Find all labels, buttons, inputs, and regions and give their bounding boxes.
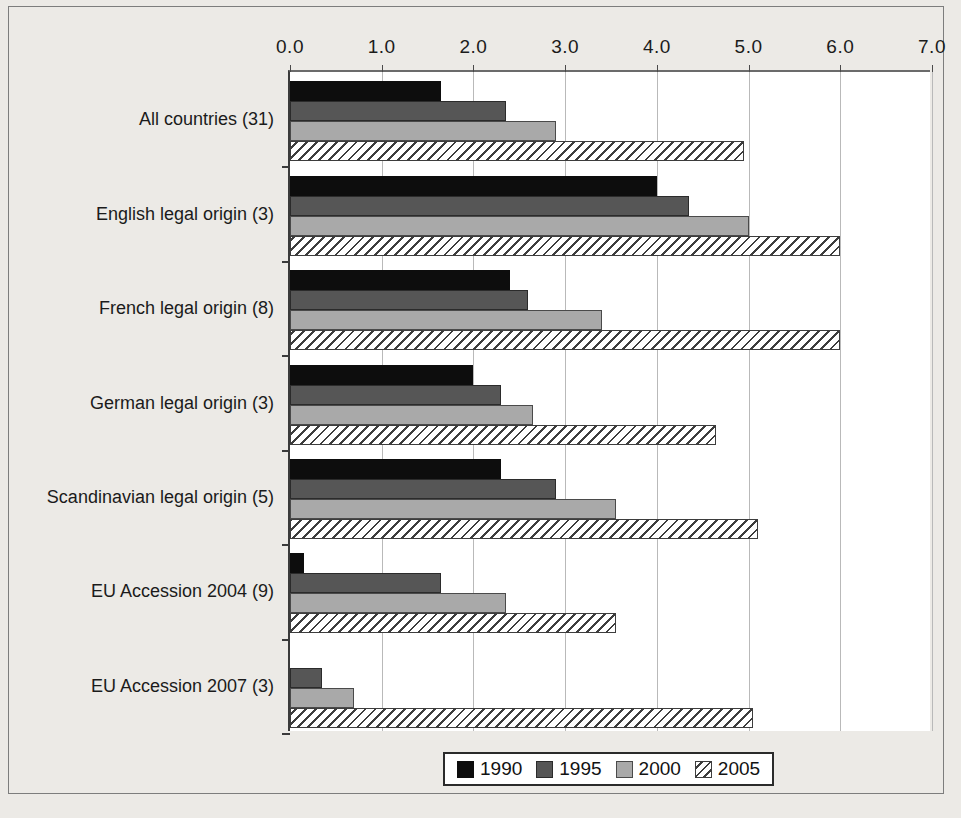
- category-label: EU Accession 2007 (3): [0, 676, 274, 697]
- bar-2000-4: [290, 405, 533, 425]
- legend-swatch-icon: [536, 761, 553, 778]
- bar-1990-5: [290, 459, 501, 479]
- category-tick: [282, 166, 290, 168]
- bar-1990-4: [290, 365, 473, 385]
- bar-1995-5: [290, 479, 556, 499]
- x-tick-mark: [382, 65, 383, 72]
- x-tick-label: 0.0: [276, 36, 304, 58]
- legend-swatch-icon: [616, 761, 633, 778]
- bar-2000-7: [290, 688, 354, 708]
- figure-frame: 0.01.02.03.04.05.06.07.0 All countries (…: [8, 6, 944, 794]
- x-tick-mark: [749, 65, 750, 72]
- bar-group: French legal origin (8): [290, 270, 930, 350]
- x-tick-label: 7.0: [918, 36, 946, 58]
- bar-group: German legal origin (3): [290, 365, 930, 445]
- legend-label: 2005: [718, 758, 760, 780]
- legend-item-2005[interactable]: 2005: [695, 758, 760, 780]
- chart-page: 0.01.02.03.04.05.06.07.0 All countries (…: [0, 0, 961, 818]
- legend-label: 2000: [639, 758, 681, 780]
- bar-2005-1: [290, 141, 744, 161]
- chart-legend: 1990199520002005: [443, 752, 774, 786]
- bar-1995-6: [290, 573, 441, 593]
- bar-group: Scandinavian legal origin (5): [290, 459, 930, 539]
- legend-item-1995[interactable]: 1995: [536, 758, 601, 780]
- bar-1990-6: [290, 553, 304, 573]
- category-tick: [282, 639, 290, 641]
- bar-2000-3: [290, 310, 602, 330]
- bar-2005-5: [290, 519, 758, 539]
- category-label: French legal origin (8): [0, 298, 274, 319]
- bar-group: English legal origin (3): [290, 176, 930, 256]
- category-label: Scandinavian legal origin (5): [0, 487, 274, 508]
- bar-2005-2: [290, 236, 840, 256]
- x-tick-label: 4.0: [643, 36, 671, 58]
- category-tick: [282, 544, 290, 546]
- bar-2000-5: [290, 499, 616, 519]
- bar-2005-3: [290, 330, 840, 350]
- x-tick-mark: [840, 65, 841, 72]
- bar-2000-1: [290, 121, 556, 141]
- legend-label: 1995: [559, 758, 601, 780]
- x-tick-mark: [565, 65, 566, 72]
- x-tick-label: 5.0: [735, 36, 763, 58]
- x-tick-label: 1.0: [368, 36, 396, 58]
- bar-1990-2: [290, 176, 657, 196]
- category-label: English legal origin (3): [0, 204, 274, 225]
- category-label: All countries (31): [0, 109, 274, 130]
- gridline: [932, 72, 933, 731]
- category-tick: [282, 355, 290, 357]
- category-label: EU Accession 2004 (9): [0, 581, 274, 602]
- bar-1990-3: [290, 270, 510, 290]
- bar-group: EU Accession 2004 (9): [290, 553, 930, 633]
- x-tick-mark: [290, 65, 291, 72]
- x-tick-mark: [657, 65, 658, 72]
- bar-2005-6: [290, 613, 616, 633]
- bar-1990-1: [290, 81, 441, 101]
- x-tick-label: 3.0: [551, 36, 579, 58]
- bar-group: All countries (31): [290, 81, 930, 161]
- x-tick-mark: [932, 65, 933, 72]
- bar-group: EU Accession 2007 (3): [290, 648, 930, 728]
- bar-2000-6: [290, 593, 506, 613]
- x-tick-label: 2.0: [459, 36, 487, 58]
- plot-area: 0.01.02.03.04.05.06.07.0 All countries (…: [288, 70, 930, 731]
- bar-1995-2: [290, 196, 689, 216]
- bar-1995-7: [290, 668, 322, 688]
- category-tick: [282, 450, 290, 452]
- legend-swatch-icon: [457, 761, 474, 778]
- bar-1995-3: [290, 290, 528, 310]
- legend-swatch-icon: [695, 761, 712, 778]
- category-label: German legal origin (3): [0, 393, 274, 414]
- x-tick-label: 6.0: [826, 36, 854, 58]
- bar-2005-4: [290, 425, 716, 445]
- x-tick-mark: [473, 65, 474, 72]
- category-tick: [282, 261, 290, 263]
- bar-1995-1: [290, 101, 506, 121]
- bar-2000-2: [290, 216, 749, 236]
- bar-2005-7: [290, 708, 753, 728]
- legend-item-2000[interactable]: 2000: [616, 758, 681, 780]
- legend-item-1990[interactable]: 1990: [457, 758, 522, 780]
- bar-1995-4: [290, 385, 501, 405]
- category-tick: [282, 733, 290, 735]
- legend-label: 1990: [480, 758, 522, 780]
